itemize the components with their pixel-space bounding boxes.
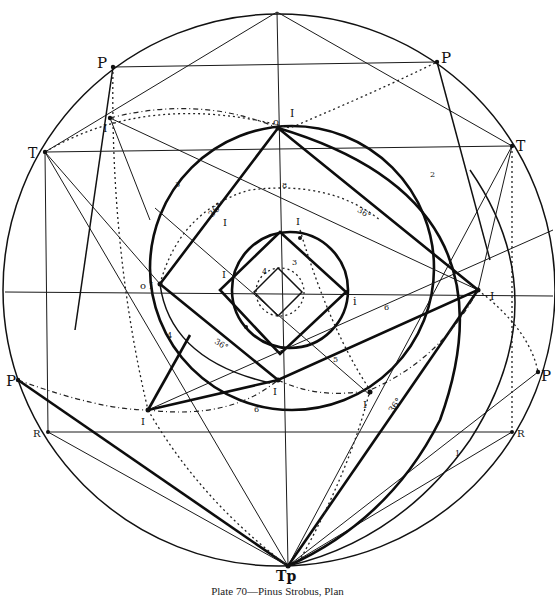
pinus-strobus-plan-diagram: P P T T P P R R Tp I o I o I I i I I I I… xyxy=(0,0,555,603)
label-i-top-left: I xyxy=(103,122,107,135)
line-p-top-left-down xyxy=(75,67,113,330)
line-i-topleft-down xyxy=(110,118,150,220)
label-num-3-inner: 3 xyxy=(292,258,297,267)
line-p-top-right-down xyxy=(437,62,490,260)
label-i-upper-mid: I xyxy=(223,217,227,228)
label-num-4-outer: 4 xyxy=(167,331,172,340)
label-num-2: 2 xyxy=(430,170,435,179)
plate-caption: Plate 70—Pinus Strobus, Plan xyxy=(0,585,555,597)
line-top-t-left xyxy=(45,12,277,152)
label-num-4-inner: 4 xyxy=(262,267,267,276)
label-i-upper-right: I xyxy=(296,216,300,227)
label-num-3-outer: 3 xyxy=(175,180,180,189)
label-num-6-right: 6 xyxy=(384,303,389,312)
label-i-top: I xyxy=(290,107,294,120)
chord-pp-top xyxy=(113,62,437,67)
line-r-left-tp xyxy=(48,432,288,566)
line-t-right-tp xyxy=(288,146,512,566)
label-num-6-bottom: 6 xyxy=(254,405,259,414)
chord-tt xyxy=(45,146,512,152)
middle-circle xyxy=(150,126,434,410)
line-p-right-tp xyxy=(288,372,538,566)
bold-line-lowerleft-up xyxy=(148,335,190,410)
dotted-arc-right xyxy=(478,290,538,372)
label-i-inner-right: i xyxy=(353,295,357,308)
label-p-top-left: P xyxy=(97,54,107,72)
label-tp-bottom: Tp xyxy=(276,568,296,584)
line-r-right-tp xyxy=(288,432,512,566)
line-top-t-right xyxy=(277,12,512,146)
label-i-lower-left: I xyxy=(141,416,145,427)
label-angle-upper-right: 36° xyxy=(356,206,373,221)
label-angle-lower-right: 36° xyxy=(386,396,403,415)
label-p-right: P xyxy=(541,367,551,385)
vertical-axis xyxy=(277,12,288,566)
label-num-5-outer: 5 xyxy=(333,355,338,364)
label-i-right: I xyxy=(490,290,494,303)
label-t-left: T xyxy=(28,145,38,161)
label-i-left: o I xyxy=(140,280,153,291)
label-i-inner-left: I xyxy=(222,269,226,280)
label-num-1: 1 xyxy=(455,449,460,458)
line-bottom-rightdiag xyxy=(148,230,553,410)
label-r-left: R xyxy=(33,428,41,439)
label-p-left: P xyxy=(6,372,16,390)
label-i-bottom: I xyxy=(273,386,277,397)
dotted-line-ptopleft-down xyxy=(113,67,148,410)
dotted-arc-upper xyxy=(45,62,437,152)
label-p-top-right: P xyxy=(441,49,451,67)
label-num-8: 8 xyxy=(282,181,287,190)
label-o-top: o xyxy=(273,116,279,127)
label-i-lower-right: I xyxy=(363,399,367,410)
line-t-left-inner xyxy=(45,152,160,284)
label-t-right: T xyxy=(516,138,526,154)
line-t-right-inner xyxy=(478,146,512,290)
label-r-right: R xyxy=(517,428,525,439)
